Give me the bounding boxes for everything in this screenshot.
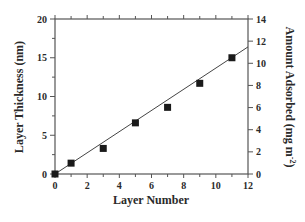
plot-frame (55, 19, 248, 174)
y2-axis-label-close: ) (283, 164, 297, 168)
data-point-marker (164, 104, 171, 111)
y-axis-ticks: 05101520 (37, 14, 55, 180)
y-tick-label: 20 (37, 14, 47, 25)
y2-tick-label: 4 (256, 124, 261, 135)
data-point-marker (68, 160, 75, 167)
y2-axis-ticks: 02468101214 (248, 14, 266, 180)
y-tick-label: 10 (37, 91, 47, 102)
x-tick-label: 4 (117, 180, 122, 191)
x-tick-label: 10 (211, 180, 221, 191)
y2-tick-label: 2 (256, 146, 261, 157)
x-tick-label: 8 (181, 180, 186, 191)
y-axis-label: Layer Thickness (nm) (12, 41, 26, 153)
y2-tick-label: 6 (256, 102, 261, 113)
y2-tick-label: 8 (256, 80, 261, 91)
y-tick-label: 0 (42, 169, 47, 180)
x-tick-label: 12 (243, 180, 253, 191)
x-tick-label: 0 (53, 180, 58, 191)
data-point-marker (196, 80, 203, 87)
y-tick-label: 5 (42, 130, 47, 141)
data-point-marker (52, 171, 59, 178)
x-axis-label: Layer Number (113, 193, 190, 207)
y2-tick-label: 10 (256, 58, 266, 69)
x-tick-label: 2 (85, 180, 90, 191)
y2-axis-label: Amount Adsorbed (mg m-2) (283, 26, 297, 167)
data-point-marker (228, 54, 235, 61)
y-tick-label: 15 (37, 52, 47, 63)
chart: 024681012 05101520 02468101214 Layer Num… (0, 0, 305, 222)
y2-tick-label: 12 (256, 36, 266, 47)
data-point-marker (132, 119, 139, 126)
x-axis-ticks: 024681012 (53, 15, 254, 191)
y2-tick-label: 0 (256, 169, 261, 180)
y2-axis-label-main: Amount Adsorbed (mg m (283, 26, 297, 156)
fit-line-segment (55, 47, 248, 174)
x-tick-label: 6 (149, 180, 154, 191)
data-point-marker (100, 145, 107, 152)
fit-line (55, 47, 248, 174)
y2-tick-label: 14 (256, 14, 266, 25)
plot-border (55, 19, 248, 174)
y2-axis-label-superscript: -2 (288, 157, 297, 164)
